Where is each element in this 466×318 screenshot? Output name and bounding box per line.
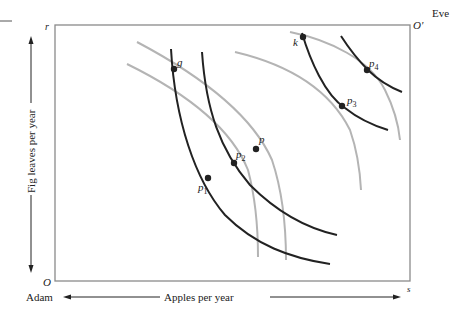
x-arrow-right-icon [393, 295, 401, 300]
corner-r-label: r [45, 21, 49, 32]
y-arrow-down-icon [29, 265, 34, 273]
corner-s-label: s [407, 284, 411, 294]
edgeworth-box-diagram: g k p p1 p2 p3 p4 r O' O s Eve Adam Appl… [0, 0, 466, 318]
adam-label: Adam [26, 291, 53, 303]
origin-eve-label: O' [413, 19, 424, 31]
x-arrow-left-icon [63, 295, 71, 300]
adam-curve-3 [302, 33, 388, 130]
label-p2: p2 [235, 148, 246, 163]
y-axis-label: Fig leaves per year [25, 109, 37, 193]
label-p1: p1 [197, 181, 208, 196]
eve-indifference-curves [127, 32, 400, 260]
label-g: g [177, 56, 183, 68]
point-p2 [231, 160, 237, 166]
point-k [300, 34, 306, 40]
label-p: p [258, 133, 265, 145]
adam-curve-2 [202, 52, 337, 235]
label-k: k [293, 36, 299, 48]
point-p [253, 146, 259, 152]
point-p1 [205, 175, 211, 181]
x-axis-label: Apples per year [164, 291, 234, 303]
point-p3 [339, 103, 345, 109]
eve-curve-upper-left [137, 42, 286, 260]
origin-adam-label: O [43, 276, 51, 288]
y-arrow-up-icon [29, 36, 34, 44]
eve-curve-middle [235, 52, 361, 190]
label-p3: p3 [346, 94, 357, 109]
eve-label: Eve [432, 7, 449, 19]
